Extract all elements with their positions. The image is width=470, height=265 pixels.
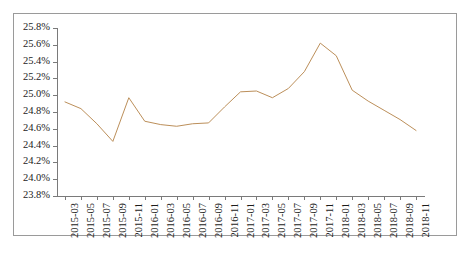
- x-axis-tick-label: 2018-07: [389, 203, 400, 238]
- y-axis-tick: [53, 112, 57, 113]
- y-axis-tick-label-text: 25.0%: [23, 89, 50, 100]
- x-axis-tick-label: 2016-11: [230, 203, 241, 238]
- y-axis-tick: [53, 45, 57, 46]
- x-axis-tick: [400, 196, 401, 200]
- x-axis-tick-label: 2016-01: [150, 203, 161, 238]
- chart-container: 25.8%25.6%25.4%25.2%25.0%24.8%24.6%24.4%…: [0, 0, 470, 265]
- x-axis-tick-label: 2017-07: [293, 203, 304, 238]
- x-axis-tick: [256, 196, 257, 200]
- y-axis-tick: [53, 162, 57, 163]
- y-axis-tick-label-text: 25.4%: [23, 56, 50, 67]
- y-axis-tick: [53, 179, 57, 180]
- x-axis-tick: [177, 196, 178, 200]
- y-axis-tick-label-text: 24.4%: [23, 140, 50, 151]
- x-axis-tick: [336, 196, 337, 200]
- x-axis-tick: [193, 196, 194, 200]
- x-axis-tick: [161, 196, 162, 200]
- y-axis-tick: [53, 62, 57, 63]
- x-axis-tick-label: 2015-05: [86, 203, 97, 238]
- x-axis-tick-label: 2016-09: [214, 203, 225, 238]
- y-axis-line: [57, 28, 58, 197]
- y-axis-tick: [53, 78, 57, 79]
- x-axis-tick-label: 2016-05: [182, 203, 193, 238]
- y-axis-tick-label-text: 24.6%: [23, 123, 50, 134]
- x-axis-tick-label: 2016-03: [166, 203, 177, 238]
- y-axis-tick: [53, 196, 57, 197]
- x-axis-tick: [272, 196, 273, 200]
- y-axis-tick-label-text: 25.8%: [23, 22, 50, 33]
- x-axis-tick: [304, 196, 305, 200]
- x-axis-tick-label: 2018-01: [341, 203, 352, 238]
- x-axis-tick-label: 2017-09: [309, 203, 320, 238]
- x-axis-tick-label: 2018-11: [421, 203, 432, 238]
- x-axis-tick: [81, 196, 82, 200]
- x-axis-tick: [416, 196, 417, 200]
- x-axis-tick: [384, 196, 385, 200]
- x-axis-tick: [288, 196, 289, 200]
- x-axis-tick-label: 2017-05: [277, 203, 288, 238]
- x-axis-tick: [129, 196, 130, 200]
- x-axis-tick: [145, 196, 146, 200]
- x-axis-tick-label: 2017-03: [261, 203, 272, 238]
- x-axis-tick-label: 2016-07: [198, 203, 209, 238]
- y-axis-tick: [53, 28, 57, 29]
- x-axis-tick-label: 2017-01: [246, 203, 257, 238]
- x-axis-tick: [241, 196, 242, 200]
- x-axis-tick: [65, 196, 66, 200]
- x-axis-tick-label: 2018-05: [373, 203, 384, 238]
- y-axis-tick-label-text: 24.8%: [23, 106, 50, 117]
- x-axis-tick-label: 2015-03: [70, 203, 81, 238]
- x-axis-tick: [320, 196, 321, 200]
- y-axis-tick-label-text: 24.0%: [23, 173, 50, 184]
- x-axis-tick: [209, 196, 210, 200]
- x-axis-tick: [352, 196, 353, 200]
- x-axis-tick-label: 2015-09: [118, 203, 129, 238]
- x-axis-tick: [225, 196, 226, 200]
- y-axis-tick-label-text: 25.6%: [23, 39, 50, 50]
- x-axis-tick-label: 2017-11: [325, 203, 336, 238]
- x-axis-tick-label: 2018-03: [357, 203, 368, 238]
- y-axis-tick: [53, 146, 57, 147]
- x-axis-tick: [368, 196, 369, 200]
- y-axis-tick-label-text: 23.8%: [23, 190, 50, 201]
- y-axis-tick-label-text: 25.2%: [23, 72, 50, 83]
- x-axis-tick: [113, 196, 114, 200]
- y-axis-tick: [53, 95, 57, 96]
- x-axis-tick-label: 2015-11: [134, 203, 145, 238]
- y-axis-tick: [53, 129, 57, 130]
- x-axis-tick-label: 2018-09: [405, 203, 416, 238]
- y-axis-tick-label-text: 24.2%: [23, 156, 50, 167]
- x-axis-tick-label: 2015-07: [102, 203, 113, 238]
- x-axis-tick: [97, 196, 98, 200]
